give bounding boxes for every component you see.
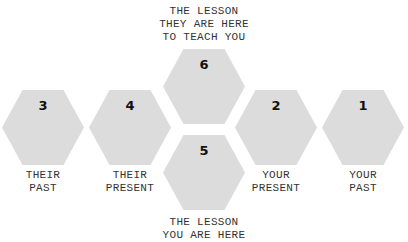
hexagon-number: 3 [2,98,84,113]
hexagon-3: 3 [2,90,84,165]
label-line: YOUR [226,169,326,182]
hexagon-number: 1 [322,98,404,113]
top-caption: THE LESSON THEY ARE HERE TO TEACH YOU [124,5,284,44]
label-line: PRESENT [226,182,326,195]
hexagon-number: 6 [163,57,245,72]
hexagon-4: 4 [89,90,171,165]
label-line: PRESENT [80,182,180,195]
top-caption-line: TO TEACH YOU [124,31,284,44]
bottom-caption: THE LESSON YOU ARE HERE [124,216,284,242]
bottom-caption-line: THE LESSON [124,216,284,229]
hexagon-number: 4 [89,98,171,113]
label-line: PAST [313,182,408,195]
hexagon-2: 2 [235,90,317,165]
top-caption-line: THE LESSON [124,5,284,18]
bottom-caption-line: YOU ARE HERE [124,229,284,242]
hexagon-number: 2 [235,98,317,113]
hexagon-6: 6 [163,49,245,124]
top-caption-line: THEY ARE HERE [124,18,284,31]
hexagon-label-your-past: YOUR PAST [313,169,408,195]
hexagon-1: 1 [322,90,404,165]
hexagon-label-your-present: YOUR PRESENT [226,169,326,195]
hexagon-number: 5 [163,143,245,158]
label-line: YOUR [313,169,408,182]
